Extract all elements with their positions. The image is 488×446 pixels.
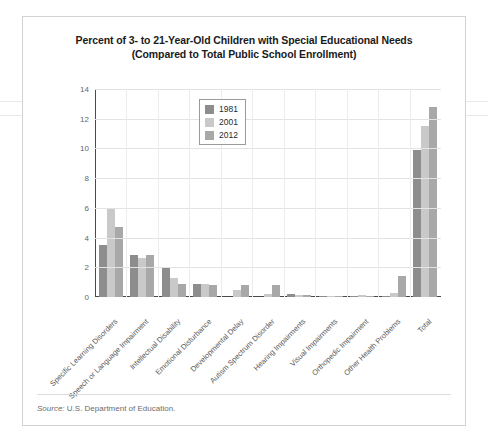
bar <box>429 107 437 297</box>
bar-group <box>378 89 409 297</box>
y-axis-tick-label: 0 <box>85 293 89 302</box>
bar <box>162 267 170 297</box>
y-axis-tick-label: 14 <box>80 85 89 94</box>
bar-chart-plot-area: 02468101214 <box>95 89 441 297</box>
category-separator <box>378 89 379 297</box>
category-separator <box>158 89 159 297</box>
gridline <box>95 267 441 268</box>
source-note: Source: U.S. Department of Education. <box>37 404 175 413</box>
legend-entry-2001: 2001 <box>205 117 238 127</box>
category-separator <box>347 89 348 297</box>
category-separator <box>252 89 253 297</box>
source-label: Source: <box>37 404 65 413</box>
legend-swatch-icon-2001 <box>205 118 214 127</box>
legend-entry-2012: 2012 <box>205 130 238 140</box>
bar <box>272 285 280 297</box>
chart-title-line-2: (Compared to Total Public School Enrollm… <box>23 47 465 61</box>
legend-entry-1981: 1981 <box>205 104 238 114</box>
bar-group <box>284 89 315 297</box>
source-text: U.S. Department of Education. <box>67 404 176 413</box>
legend-label-2001: 2001 <box>219 117 238 127</box>
x-axis-labels: Specific Learning DisordersSpeech or Lan… <box>95 317 441 409</box>
bar <box>99 245 107 297</box>
bar-group <box>410 89 441 297</box>
x-axis-tick-label: Autism Spectrum Disorder <box>164 317 276 429</box>
gridline <box>95 119 441 120</box>
bar <box>421 126 429 297</box>
bar <box>170 278 178 297</box>
category-separator <box>410 89 411 297</box>
gridline <box>95 208 441 209</box>
legend-label-2012: 2012 <box>219 130 238 140</box>
category-separator <box>189 89 190 297</box>
bar <box>233 290 241 297</box>
bar <box>209 285 217 297</box>
bar <box>241 285 249 297</box>
gridline <box>95 297 441 298</box>
legend-swatch-icon-2012 <box>205 131 214 140</box>
bar-group <box>126 89 157 297</box>
y-axis-tick-label: 6 <box>85 203 89 212</box>
bar <box>413 150 421 297</box>
bar-group <box>158 89 189 297</box>
bar <box>398 276 406 297</box>
gridline <box>95 148 441 149</box>
figure-frame: Percent of 3- to 21-Year-Old Children wi… <box>22 16 466 426</box>
bar <box>201 284 209 297</box>
legend-label-1981: 1981 <box>219 104 238 114</box>
plot-wrapper: 02468101214 1981 2001 2012 <box>23 77 467 317</box>
gridline <box>95 178 441 179</box>
bar <box>178 284 186 297</box>
gridline <box>95 238 441 239</box>
y-axis-tick-label: 10 <box>80 144 89 153</box>
bar <box>107 208 115 297</box>
legend-swatch-icon-1981 <box>205 105 214 114</box>
chart-title-line-1: Percent of 3- to 21-Year-Old Children wi… <box>76 34 413 46</box>
bar <box>146 255 154 297</box>
y-axis-tick-label: 4 <box>85 233 89 242</box>
bar-groups <box>95 89 441 297</box>
bar-group <box>252 89 283 297</box>
page-title: Percent of 3- to 21-Year-Old Children wi… <box>23 33 465 61</box>
bar <box>138 258 146 297</box>
chart-legend: 1981 2001 2012 <box>199 99 246 145</box>
y-axis-tick-label: 8 <box>85 174 89 183</box>
category-separator <box>284 89 285 297</box>
gridline <box>95 89 441 90</box>
bar-group <box>95 89 126 297</box>
bar-group <box>347 89 378 297</box>
source-divider <box>37 394 451 395</box>
y-axis-tick-label: 2 <box>85 263 89 272</box>
category-separator <box>126 89 127 297</box>
category-separator <box>315 89 316 297</box>
bar <box>130 255 138 297</box>
bar <box>193 284 201 297</box>
bar-group <box>315 89 346 297</box>
y-axis-tick-label: 12 <box>80 114 89 123</box>
